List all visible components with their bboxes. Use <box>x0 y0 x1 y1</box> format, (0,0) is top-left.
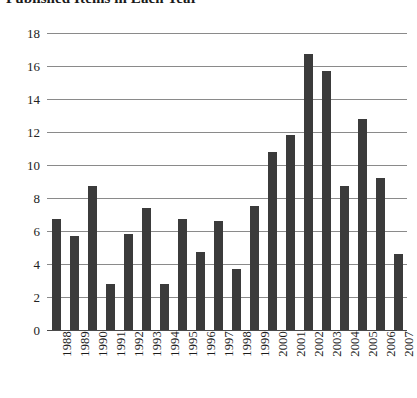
bar <box>394 254 403 330</box>
x-axis-tick-label: 1990 <box>97 331 110 357</box>
bar <box>322 71 331 330</box>
bar <box>286 135 295 330</box>
bar-chart: Published Items in Each Year 18161412108… <box>0 0 417 398</box>
bar <box>214 221 223 330</box>
x-axis-tick-label: 2000 <box>277 331 290 357</box>
y-axis-tick-label: 0 <box>6 324 40 337</box>
x-axis-tick-label: 1994 <box>169 331 182 357</box>
x-axis-tick-label: 1991 <box>115 331 128 357</box>
bar <box>70 236 79 330</box>
x-axis-tick-label: 1989 <box>79 331 92 357</box>
x-axis-tick-label: 2001 <box>295 331 308 357</box>
x-axis-tick-label: 2004 <box>349 331 362 357</box>
chart-title: Published Items in Each Year <box>6 0 197 7</box>
bar <box>124 234 133 330</box>
y-axis-tick-label: 6 <box>6 225 40 238</box>
x-axis-tick-label: 1996 <box>205 331 218 357</box>
x-axis-tick-label: 2006 <box>385 331 398 357</box>
y-axis-tick-label: 18 <box>6 27 40 40</box>
y-axis-tick-label: 8 <box>6 192 40 205</box>
y-axis-tick-label: 10 <box>6 159 40 172</box>
y-axis-tick-label: 4 <box>6 258 40 271</box>
bar <box>358 119 367 330</box>
bar <box>196 252 205 330</box>
bar <box>250 206 259 330</box>
bar <box>160 284 169 330</box>
bar <box>142 208 151 330</box>
x-axis-tick-label: 2005 <box>367 331 380 357</box>
x-axis-tick-label: 2007 <box>403 331 416 357</box>
bar <box>268 152 277 330</box>
bar <box>376 178 385 330</box>
bar <box>106 284 115 330</box>
x-axis-tick-label: 1999 <box>259 331 272 357</box>
bar <box>304 54 313 330</box>
x-axis-tick-label: 1993 <box>151 331 164 357</box>
bar <box>178 219 187 330</box>
x-axis: 1988198919901991199219931994199519961997… <box>47 331 407 398</box>
bar <box>52 219 61 330</box>
bars-layer <box>47 33 407 330</box>
bar <box>88 186 97 330</box>
x-axis-tick-label: 2003 <box>331 331 344 357</box>
x-axis-tick-label: 1988 <box>61 331 74 357</box>
x-axis-tick-label: 1992 <box>133 331 146 357</box>
y-axis: 181614121086420 <box>0 33 40 330</box>
bar <box>232 269 241 330</box>
x-axis-tick-label: 1997 <box>223 331 236 357</box>
y-axis-tick-label: 12 <box>6 126 40 139</box>
x-axis-tick-label: 1998 <box>241 331 254 357</box>
y-axis-tick-label: 14 <box>6 93 40 106</box>
x-axis-tick-label: 2002 <box>313 331 326 357</box>
y-axis-tick-label: 2 <box>6 291 40 304</box>
y-axis-tick-label: 16 <box>6 60 40 73</box>
x-axis-tick-label: 1995 <box>187 331 200 357</box>
bar <box>340 186 349 330</box>
